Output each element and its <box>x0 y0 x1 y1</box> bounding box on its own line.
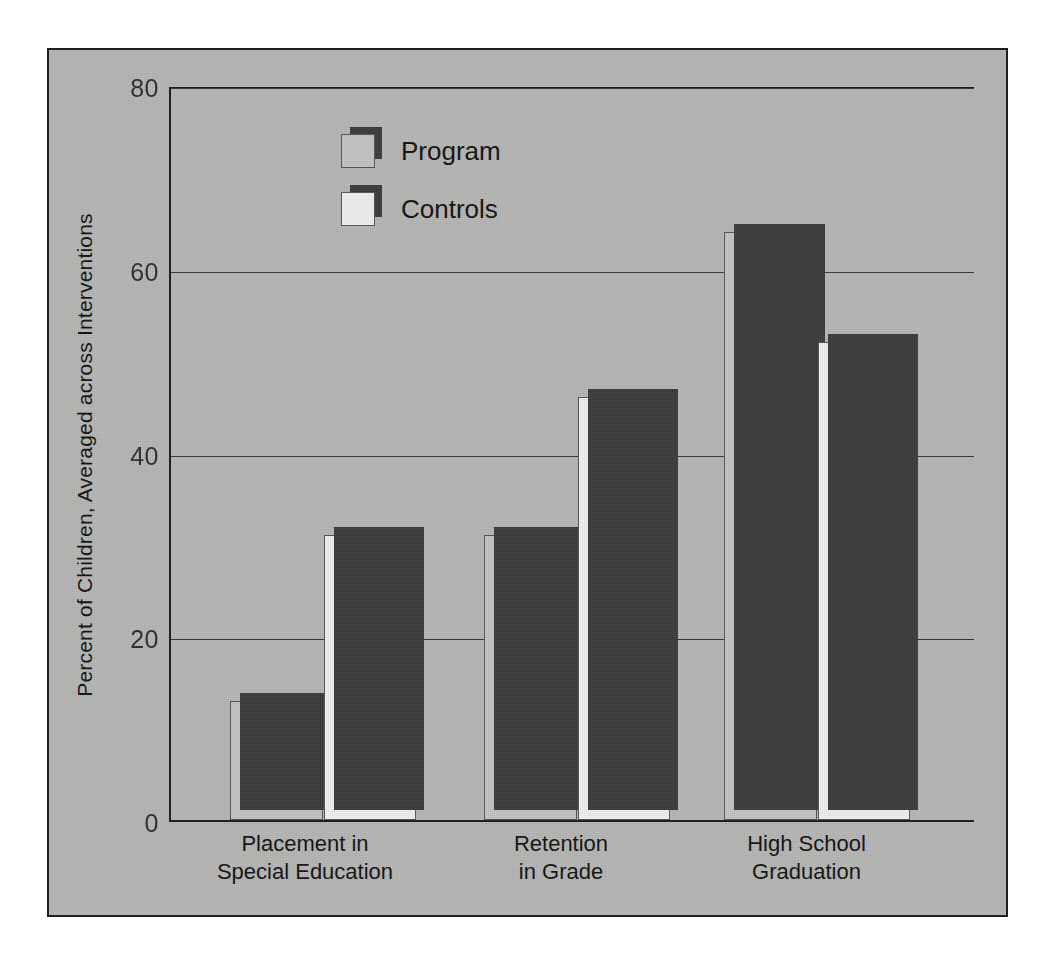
y-axis-title: Percent of Children, Averaged across Int… <box>67 87 103 822</box>
y-tick-label-40: 40 <box>130 441 159 470</box>
gridline-80: 80 <box>171 88 974 89</box>
legend-swatch-controls-icon <box>341 192 375 226</box>
bar-controls-high-school-graduation <box>818 342 910 820</box>
bar-program-high-school-graduation <box>724 232 817 820</box>
y-tick-label-80: 80 <box>130 74 159 103</box>
bar-program-retention-in-grade <box>484 535 577 820</box>
x-category-label-high-school-graduation: High School Graduation <box>704 830 909 885</box>
bar-program-placement-in-special-education <box>230 701 323 820</box>
y-axis-title-text: Percent of Children, Averaged across Int… <box>73 213 97 697</box>
y-tick-label-60: 60 <box>130 257 159 286</box>
legend-label-program: Program <box>401 136 501 167</box>
gridline-0: 0 <box>171 823 974 824</box>
x-category-label-placement-in-special-education: Placement in Special Education <box>199 830 411 885</box>
legend-label-controls: Controls <box>401 194 498 225</box>
legend-item-program: Program <box>341 122 501 180</box>
legend-swatch-program-icon <box>341 134 375 168</box>
legend-item-controls: Controls <box>341 180 501 238</box>
bar-controls-retention-in-grade <box>578 397 670 820</box>
y-tick-label-0: 0 <box>145 809 159 838</box>
chart-figure: Percent of Children, Averaged across Int… <box>47 48 1008 917</box>
gridline-60: 60 <box>171 272 974 273</box>
x-category-label-retention-in-grade: Retention in Grade <box>461 830 661 885</box>
legend: Program Controls <box>341 122 501 238</box>
y-tick-label-20: 20 <box>130 625 159 654</box>
plot-area: 80 60 40 20 0 <box>169 87 974 822</box>
bar-controls-placement-in-special-education <box>324 535 416 820</box>
